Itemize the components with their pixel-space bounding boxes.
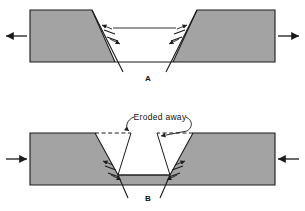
figure-root: A (0, 0, 305, 211)
panel-b-label: B (145, 194, 151, 203)
eroded-away-label: Eroded away (134, 112, 187, 122)
panel-a-label: A (145, 74, 151, 83)
graben-diagram-svg: A (0, 0, 305, 211)
